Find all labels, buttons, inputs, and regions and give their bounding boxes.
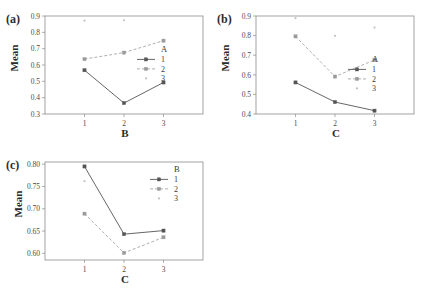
svg-text:A: A [161,44,168,54]
panel-a-x-axis-label: B [45,127,205,139]
svg-text:3: 3 [174,194,178,203]
panel-c-x-axis-label: C [45,273,205,285]
svg-text:0.4: 0.4 [31,93,41,102]
svg-text:0.9: 0.9 [242,12,252,21]
svg-text:1: 1 [174,175,178,184]
panel-a: (a) Mean 0.30.40.50.60.70.80.9123A123 B [0,0,211,145]
svg-text:0.7: 0.7 [31,44,41,53]
svg-text:0.5: 0.5 [31,77,41,86]
svg-text:0.8: 0.8 [31,28,41,37]
svg-text:2: 2 [161,65,165,74]
panel-b-x-axis-label: C [256,127,416,139]
panel-b-plot: 0.40.50.60.70.80.9123A123 [211,0,422,145]
svg-text:0.7: 0.7 [242,51,252,60]
svg-text:2: 2 [174,185,178,194]
svg-text:0.3: 0.3 [31,110,41,119]
svg-text:0.9: 0.9 [31,12,41,21]
panel-a-plot: 0.30.40.50.60.70.80.9123A123 [0,0,211,145]
svg-text:2: 2 [372,75,376,84]
svg-text:B: B [174,164,180,174]
panel-b: (b) Mean 0.40.50.60.70.80.9123A123 C [211,0,422,145]
svg-text:0.6: 0.6 [242,71,252,80]
svg-text:0.75: 0.75 [27,182,40,191]
svg-text:3: 3 [161,74,165,83]
svg-text:3: 3 [372,84,376,93]
svg-text:0.5: 0.5 [242,90,252,99]
svg-text:0.6: 0.6 [31,61,41,70]
svg-text:0.4: 0.4 [242,110,252,119]
svg-text:1: 1 [161,55,165,64]
svg-text:A: A [372,54,379,64]
svg-text:1: 1 [372,65,376,74]
panel-c-plot: 0.600.650.700.750.80123B123 [0,146,211,291]
svg-text:0.65: 0.65 [27,227,40,236]
svg-text:0.8: 0.8 [242,31,252,40]
panel-c: (c) Mean 0.600.650.700.750.80123B123 C [0,146,211,291]
svg-text:0.70: 0.70 [27,204,40,213]
svg-text:0.80: 0.80 [27,160,40,169]
figure-interaction-plots: (a) Mean 0.30.40.50.60.70.80.9123A123 B … [0,0,422,291]
svg-text:0.60: 0.60 [27,249,40,258]
